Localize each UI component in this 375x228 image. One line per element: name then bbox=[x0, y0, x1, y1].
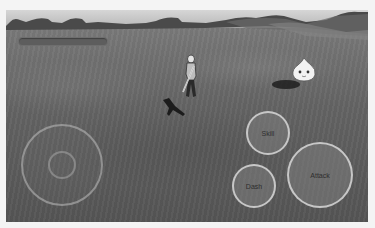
attack-button[interactable]: Attack bbox=[287, 142, 353, 208]
slime-enemy-icon[interactable] bbox=[291, 57, 317, 83]
player-health-bar bbox=[18, 37, 108, 46]
player-character-icon bbox=[178, 54, 204, 100]
skill-button[interactable]: Skill bbox=[246, 111, 290, 155]
player-shadow bbox=[161, 96, 191, 122]
skill-button-label: Skill bbox=[262, 130, 275, 137]
dash-button[interactable]: Dash bbox=[232, 164, 276, 208]
joystick-knob[interactable] bbox=[48, 151, 76, 179]
attack-button-label: Attack bbox=[310, 172, 329, 179]
game-viewport[interactable]: Skill Dash Attack bbox=[6, 10, 368, 222]
dash-button-label: Dash bbox=[246, 183, 262, 190]
